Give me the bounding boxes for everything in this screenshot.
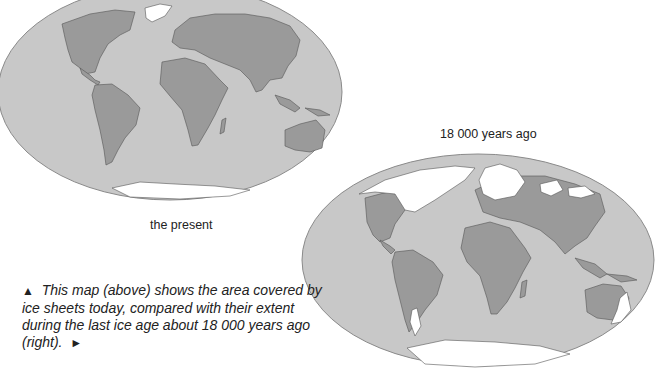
caption-text: This map (above) shows the area covered … (22, 282, 322, 350)
present-day-map (0, 0, 345, 205)
ice-age-map-label: 18 000 years ago (440, 127, 537, 141)
map-caption: ▲ This map (above) shows the area covere… (22, 282, 322, 352)
present-map-label: the present (150, 218, 213, 232)
up-triangle-icon: ▲ (22, 284, 34, 298)
right-triangle-icon: ► (70, 336, 82, 350)
ice-age-map (295, 150, 662, 374)
